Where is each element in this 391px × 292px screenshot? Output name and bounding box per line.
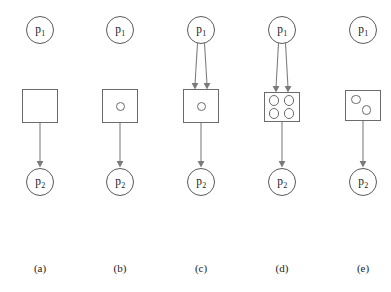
arcs-b <box>80 0 160 292</box>
panel-caption-b: (b) <box>80 262 160 274</box>
input-arc-c-2-line <box>205 43 208 85</box>
output-arc-d-head <box>279 161 286 168</box>
input-arc-c-1-line <box>195 43 198 85</box>
output-arc-c-head <box>198 161 205 168</box>
panel-caption-c: (c) <box>161 262 241 274</box>
input-arc-c-2-head <box>204 83 211 90</box>
output-arc-a-head <box>37 161 44 168</box>
petri-net-figure: p1p2(a)p1p2(b)p1p2(c)p1p2(d)p1p2(e) <box>0 0 391 292</box>
panel-caption-d: (d) <box>242 262 322 274</box>
panel-e: p1p2(e) <box>323 0 391 292</box>
panel-b: p1p2(b) <box>80 0 160 292</box>
arcs-d <box>242 0 322 292</box>
arcs-a <box>0 0 80 292</box>
output-arc-e-head <box>360 161 367 168</box>
arcs-c <box>161 0 241 292</box>
input-arc-d-1-head <box>273 86 280 93</box>
panel-caption-e: (e) <box>323 262 391 274</box>
input-arc-d-2-line <box>286 43 289 88</box>
input-arc-d-2-head <box>285 86 292 93</box>
input-arc-d-1-line <box>276 43 279 88</box>
panel-a: p1p2(a) <box>0 0 80 292</box>
input-arc-c-1-head <box>192 83 199 90</box>
panel-c: p1p2(c) <box>161 0 241 292</box>
panel-d: p1p2(d) <box>242 0 322 292</box>
panel-caption-a: (a) <box>0 262 80 274</box>
arcs-e <box>323 0 391 292</box>
output-arc-b-head <box>117 161 124 168</box>
